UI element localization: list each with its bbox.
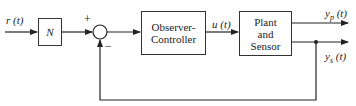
minus-sign: − xyxy=(105,40,112,52)
plant-label-line2: and xyxy=(258,28,274,40)
plant-sensor-block: Plant and Sensor xyxy=(239,11,292,56)
plant-label-line1: Plant xyxy=(254,16,277,28)
ys-label: ys (t) xyxy=(325,50,346,67)
ys-tail: (t) xyxy=(333,50,346,62)
yp-label: yp (t) xyxy=(325,7,347,24)
plant-label-line3: Sensor xyxy=(251,40,281,52)
yp-tail: (t) xyxy=(334,7,347,19)
gain-block: N xyxy=(38,18,62,46)
observer-controller-block: Observer- Controller xyxy=(141,11,206,55)
input-label: r (t) xyxy=(6,14,23,26)
summing-junction xyxy=(93,25,107,39)
gain-block-label: N xyxy=(46,26,53,38)
plus-sign: + xyxy=(84,13,91,25)
control-signal-label: u (t) xyxy=(212,18,231,30)
observer-label-line2: Controller xyxy=(151,33,196,45)
observer-label-line1: Observer- xyxy=(152,21,196,33)
